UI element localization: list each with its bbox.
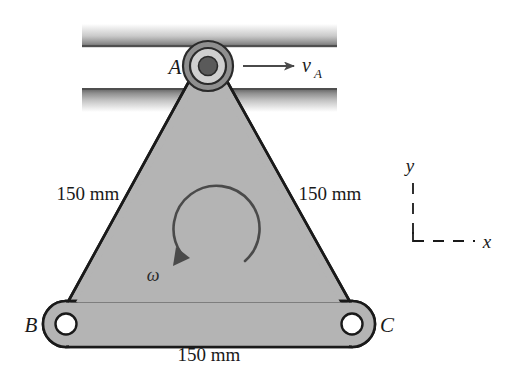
label-point-c: C [380, 313, 395, 337]
label-point-a: A [167, 55, 182, 79]
label-axis-x: x [482, 231, 492, 252]
pin-a-slider [183, 41, 233, 91]
velocity-subscript: A [313, 66, 322, 81]
pin-b [56, 314, 77, 335]
dimension-left-side: 150 mm [57, 183, 120, 204]
figure-canvas: A B C v A ω 150 mm 150 mm 150 mm y x [0, 0, 516, 378]
axis-corner [413, 232, 422, 241]
velocity-symbol: v [302, 54, 311, 76]
label-axis-y: y [404, 155, 415, 176]
coordinate-axes [413, 183, 475, 241]
omega-symbol: ω [147, 265, 160, 285]
dimension-bottom-side: 150 mm [178, 344, 241, 365]
dimension-right-side: 150 mm [299, 183, 362, 204]
label-point-b: B [25, 313, 38, 337]
engineering-figure: A B C v A ω 150 mm 150 mm 150 mm y x [0, 0, 516, 378]
pin-c [342, 314, 363, 335]
